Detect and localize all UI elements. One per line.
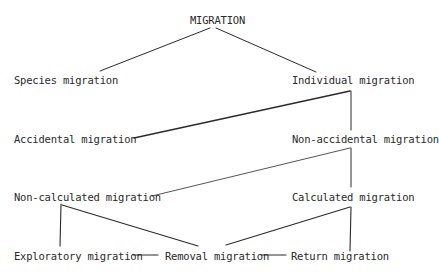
node-non-calculated-migration: Non-calculated migration	[14, 191, 161, 203]
node-individual-migration: Individual migration	[292, 74, 414, 86]
node-species-migration: Species migration	[14, 74, 118, 86]
node-return-migration: Return migration	[291, 250, 389, 262]
edge-root-individual	[216, 28, 316, 72]
node-accidental-migration: Accidental migration	[14, 133, 136, 145]
node-calculated-migration: Calculated migration	[292, 191, 414, 203]
edge-nonaccidental-noncalculated	[152, 148, 350, 196]
edge-root-species	[100, 28, 210, 71]
edge-noncalculated-removal	[62, 205, 198, 246]
edge-calculated-return	[350, 207, 351, 251]
node-migration-root: MIGRATION	[190, 14, 245, 26]
edge-noncalculated-exploratory	[60, 204, 61, 246]
edge-calculated-removal	[226, 207, 350, 245]
node-exploratory-migration: Exploratory migration	[14, 250, 143, 262]
node-non-accidental-migration: Non-accidental migration	[292, 133, 439, 145]
node-removal-migration: Removal migration	[165, 250, 269, 262]
edge-individual-accidental	[134, 91, 350, 138]
